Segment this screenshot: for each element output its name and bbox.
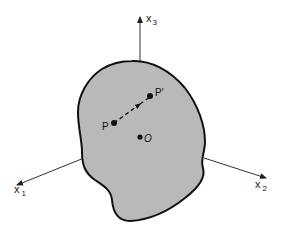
deformable-body-diagram: P P′ O x3 x1 x2 (0, 0, 289, 232)
label-x3: x3 (146, 12, 158, 27)
label-o: O (144, 133, 152, 144)
point-p (111, 120, 117, 126)
point-p-prime (147, 93, 153, 99)
label-p-prime: P′ (155, 87, 164, 98)
body-shape (78, 61, 205, 221)
point-o (137, 134, 142, 139)
x2-axis (204, 158, 266, 178)
x1-axis (17, 158, 84, 185)
label-p: P (102, 121, 109, 132)
label-x2: x2 (255, 178, 268, 193)
label-x1: x1 (14, 183, 27, 198)
